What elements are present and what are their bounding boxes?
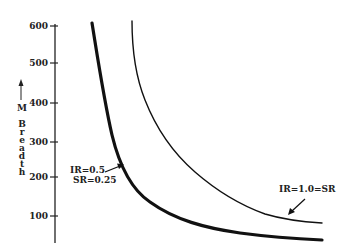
ylabel-char: h	[19, 167, 26, 177]
arrow-icon	[105, 164, 124, 173]
tick-label-600: 600	[29, 21, 48, 31]
annotation-ir10: IR=1.0=SR	[279, 184, 336, 215]
series-ir05-sr025	[92, 23, 322, 240]
tick-label-300: 300	[29, 137, 48, 147]
tick-label-100: 100	[29, 211, 48, 221]
y-tick-labels: 600 500 400 300 200 100	[29, 21, 48, 221]
y-ticks	[50, 26, 58, 216]
arrow-icon	[288, 199, 305, 215]
up-arrow-icon	[19, 79, 24, 100]
tick-label-200: 200	[29, 172, 48, 182]
annotation-ir05: IR=0.5 SR=0.25	[70, 164, 124, 186]
ylabel-m: M	[17, 103, 27, 113]
annotation-ir05-line1: IR=0.5	[70, 165, 105, 175]
chart: 600 500 400 300 200 100 M B r e a d t h …	[0, 0, 345, 243]
annotation-ir10-label: IR=1.0=SR	[279, 184, 336, 194]
tick-label-500: 500	[29, 58, 48, 68]
annotation-ir05-line2: SR=0.25	[73, 175, 116, 185]
tick-label-400: 400	[29, 98, 48, 108]
y-axis-label: M B r e a d t h	[17, 79, 27, 177]
